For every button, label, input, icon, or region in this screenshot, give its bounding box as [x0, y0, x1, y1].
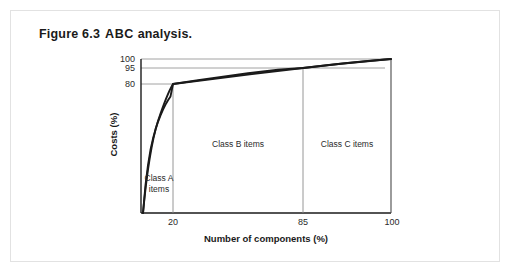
zone-label-class-c: Class C items	[311, 139, 383, 150]
chart-plot-svg	[11, 11, 501, 263]
x-tick-85: 85	[289, 217, 317, 227]
abc-analysis-chart: Costs (%) 100 95 80 20 85 100 Number of …	[11, 11, 501, 263]
y-tick-80: 80	[107, 79, 135, 89]
figure-page: Figure 6.3ABC analysis. Costs (%) 100	[10, 10, 500, 262]
x-tick-20: 20	[159, 217, 187, 227]
zone-label-class-b: Class B items	[201, 139, 275, 150]
zone-label-class-a: Class A items	[143, 173, 175, 194]
x-tick-100: 100	[378, 217, 406, 227]
y-axis-title: Costs (%)	[108, 97, 119, 157]
cumulative-cost-curve	[143, 59, 391, 213]
x-axis-title: Number of components (%)	[166, 233, 366, 244]
y-tick-95: 95	[107, 63, 135, 73]
